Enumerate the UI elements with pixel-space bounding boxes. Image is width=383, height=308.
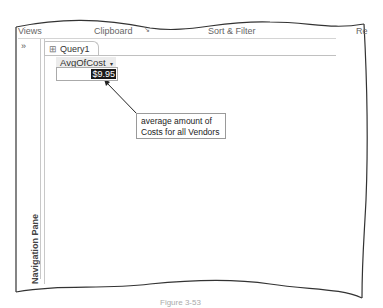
ribbon-divider	[18, 38, 336, 39]
query-icon: ⊞	[49, 44, 57, 54]
ribbon-group-labels: Views Clipboard ↘ Sort & Filter Re	[18, 26, 338, 38]
tab-query1[interactable]: ⊞ Query1	[44, 41, 99, 56]
dialog-launcher-icon[interactable]: ↘	[144, 26, 150, 34]
expand-nav-pane-icon[interactable]: »	[21, 41, 26, 51]
callout-annotation: average amount of Costs for all Vendors	[136, 113, 226, 139]
avg-cost-value[interactable]: $9.95	[91, 69, 116, 79]
tab-label: Query1	[60, 44, 90, 54]
figure-caption: Figure 3-53	[160, 298, 201, 307]
pane-divider	[40, 39, 41, 279]
ribbon-group-sort-filter[interactable]: Sort & Filter	[208, 26, 256, 36]
table-cell[interactable]: $9.95	[56, 67, 118, 81]
ribbon-group-clipboard[interactable]: Clipboard	[94, 26, 133, 36]
tab-divider	[44, 55, 336, 56]
ribbon-group-views[interactable]: Views	[18, 26, 42, 36]
ribbon-group-records[interactable]: Re	[356, 26, 368, 36]
navigation-pane-label[interactable]: Navigation Pane	[30, 214, 40, 284]
